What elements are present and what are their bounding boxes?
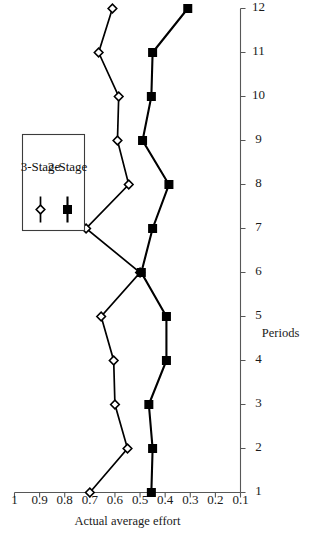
category-tick-label: 9 [255, 131, 262, 146]
data-point-marker [138, 136, 146, 144]
data-point-marker [63, 205, 71, 213]
series-line [86, 8, 140, 492]
data-point-marker [147, 488, 155, 496]
chart-legend: 3-Stage2-Stage [20, 134, 87, 230]
data-point-marker [137, 268, 145, 276]
value-tick-label: 0.8 [56, 492, 72, 507]
value-tick-label: 0.2 [207, 492, 223, 507]
x-axis-title: Periods [261, 326, 299, 340]
data-point-marker [94, 48, 103, 57]
data-point-marker [183, 4, 191, 12]
chart-figure: 10.90.80.70.60.50.40.30.20.1 12345678910… [0, 0, 335, 548]
category-tick-label: 12 [252, 0, 265, 14]
category-tick-label: 8 [255, 175, 262, 190]
data-point-marker [162, 312, 170, 320]
data-point-marker [109, 356, 118, 365]
chart-rotated-canvas: 10.90.80.70.60.50.40.30.20.1 12345678910… [0, 0, 335, 548]
legend-border [22, 134, 84, 230]
data-point-marker [148, 224, 156, 232]
category-tick-label: 2 [255, 439, 262, 454]
data-point-marker [114, 92, 123, 101]
data-point-marker [108, 4, 117, 13]
data-point-marker [123, 444, 132, 453]
value-tick-label: 1 [11, 492, 18, 507]
category-tick-label: 6 [255, 263, 262, 278]
value-axis-tick-labels: 10.90.80.70.60.50.40.30.20.1 [11, 492, 248, 507]
value-tick-label: 0.5 [131, 492, 147, 507]
chart-svg: 10.90.80.70.60.50.40.30.20.1 12345678910… [0, 0, 335, 548]
value-tick-label: 0.9 [31, 492, 47, 507]
data-point-marker [145, 400, 153, 408]
series-line [141, 8, 187, 492]
category-tick-label: 4 [255, 351, 262, 366]
data-point-marker [110, 400, 119, 409]
category-tick-label: 3 [255, 395, 262, 410]
category-tick-label: 5 [255, 307, 262, 322]
value-tick-label: 0.6 [106, 492, 123, 507]
value-tick-label: 0.3 [182, 492, 198, 507]
data-point-marker [165, 180, 173, 188]
category-tick-label: 1 [255, 483, 262, 498]
category-tick-label: 7 [255, 219, 262, 234]
data-point-marker [148, 48, 156, 56]
data-point-marker [113, 136, 122, 145]
category-tick-label: 10 [252, 87, 265, 102]
data-point-marker [147, 92, 155, 100]
data-point-marker [148, 444, 156, 452]
series-3-stage [81, 4, 144, 497]
data-series-layer [81, 4, 191, 497]
y-axis-title: Actual average effort [74, 514, 180, 528]
series-2-stage [137, 4, 191, 496]
category-axis-tick-labels: 123456789101112 [252, 0, 265, 498]
value-tick-label: 0.1 [232, 492, 248, 507]
legend-label: 2-Stage [47, 159, 87, 174]
value-tick-label: 0.4 [157, 492, 174, 507]
category-tick-label: 11 [252, 43, 265, 58]
data-point-marker [162, 356, 170, 364]
